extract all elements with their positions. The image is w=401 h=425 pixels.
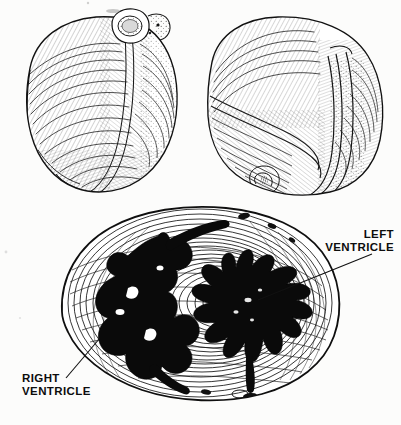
heart-plate-svg: LEFT VENTRICLE RIGHT VENTRICLE	[0, 0, 401, 425]
heart-cross-section	[55, 200, 355, 415]
illustration-plate: LEFT VENTRICLE RIGHT VENTRICLE	[0, 0, 401, 425]
label-right-ventricle-line2: VENTRICLE	[22, 385, 91, 397]
heart-specimen-posterior	[200, 8, 400, 208]
aorta-stump	[112, 9, 170, 43]
label-right-ventricle-line1: RIGHT	[22, 372, 60, 384]
label-left-ventricle-line1: LEFT	[364, 228, 394, 240]
label-left-ventricle-line2: VENTRICLE	[325, 241, 394, 253]
heart-specimen-anterior	[20, 8, 195, 210]
